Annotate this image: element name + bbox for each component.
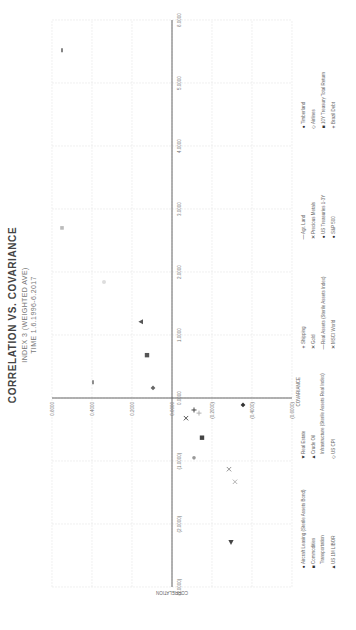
legend-marker-icon: ● — [300, 564, 306, 570]
legend-marker-icon: ▲ — [310, 454, 316, 460]
legend-label: Agr. Land — [301, 215, 306, 234]
legend-item: Transportation — [320, 535, 325, 570]
y-tick-label: (0.2000) — [210, 402, 215, 419]
legend-label: Shipping — [301, 326, 306, 344]
legend-marker-icon: + — [330, 124, 336, 130]
legend-item: ■Commodities — [310, 538, 316, 570]
legend-marker-icon: — — [300, 234, 306, 240]
legend-item: ✕Gold — [310, 334, 316, 350]
y-tick-label: 0.0000 — [170, 402, 175, 416]
legend-marker-icon: ● — [330, 234, 336, 240]
legend-label: US Treasuries 1-3Y — [321, 195, 326, 234]
x-tick-label: 4.0000 — [177, 139, 182, 153]
legend-item: +Brazil Debt — [330, 102, 336, 130]
y-tick-label: 0.2000 — [130, 402, 135, 416]
legend-item: ■10Y Treasury Total Return — [320, 72, 326, 130]
legend-label: 10Y Treasury Total Return — [321, 72, 326, 124]
x-axis-title: COVARIANCE — [296, 377, 301, 406]
data-point-triangle — [138, 319, 143, 324]
legend-item: ▼Real Estate — [300, 431, 306, 460]
x-tick-label: (1.0000) — [177, 452, 182, 469]
legend-marker-icon: + — [300, 344, 306, 350]
legend-item: +Shipping — [300, 326, 306, 350]
x-tick-label: 3.0000 — [177, 202, 182, 216]
legend-label: Real Assets (Sterile Assets Index) — [321, 276, 326, 344]
data-point-diamond — [241, 403, 246, 408]
legend-label: Aircraft Leasing (Sterile Assets Bond) — [301, 489, 306, 564]
legend-label: Airlines — [311, 109, 316, 124]
legend-item: ●S&P 500 — [330, 216, 336, 240]
chart-frame: CORRELATION VS. COVARIANCE INDEX 3 (WEIG… — [0, 0, 356, 630]
y-tick-label: (0.4000) — [250, 402, 255, 419]
legend-item: ●Aircraft Leasing (Sterile Assets Bond) — [300, 489, 306, 570]
legend-item: ✕Precious Metals — [310, 202, 316, 240]
legend-label: Crude Oil — [311, 435, 316, 454]
legend-label: Timberland — [301, 102, 306, 124]
legend-label: Transportation — [320, 535, 325, 564]
legend-label: US CPI — [331, 439, 336, 454]
y-axis-title: CORRELATION — [156, 590, 188, 595]
legend-marker-icon: ▼ — [300, 454, 306, 460]
legend-marker-icon: ✕ — [330, 344, 336, 350]
data-point-square — [200, 435, 204, 439]
x-tick-label: 6.0000 — [177, 13, 182, 27]
legend-marker-icon: ● — [300, 124, 306, 130]
y-tick-label: (0.6000) — [290, 402, 295, 419]
legend-marker-icon: ▲ — [330, 564, 336, 570]
y-tick-label: 0.6000 — [50, 402, 55, 416]
legend-label: US 1M LIBOR — [331, 535, 336, 564]
legend-item: Infrastructure (Sterile Assets Real Inde… — [320, 373, 325, 460]
legend-marker-icon: ◇ — [330, 454, 336, 460]
legend-label: MSCI World — [331, 320, 336, 344]
legend-item: ✕MSCI World — [330, 320, 336, 350]
legend-item: ▲US 1M LIBOR — [330, 535, 336, 570]
data-point-square — [145, 353, 149, 357]
legend-marker-icon: ■ — [320, 124, 326, 130]
legend-label: Precious Metals — [311, 202, 316, 234]
legend-item: ◇Airlines — [310, 109, 316, 130]
x-tick-label: 0.0000 — [177, 391, 182, 405]
x-tick-label: 1.0000 — [177, 328, 182, 342]
x-tick-label: 2.0000 — [177, 265, 182, 279]
y-tick-label: 0.4000 — [90, 402, 95, 416]
legend-marker-icon: ✕ — [310, 234, 316, 240]
legend-item: —Real Assets (Sterile Assets Index) — [320, 276, 326, 350]
legend-item: —Agr. Land — [300, 215, 306, 240]
legend-label: Commodities — [311, 538, 316, 564]
legend-marker-icon: ✕ — [310, 344, 316, 350]
legend-marker-icon: ● — [320, 234, 326, 240]
data-point-circle — [102, 280, 106, 284]
legend-item: ●Timberland — [300, 102, 306, 130]
data-point-diamond — [151, 386, 156, 391]
x-tick-label: 5.0000 — [177, 76, 182, 90]
legend-item: ▲Crude Oil — [310, 435, 316, 460]
legend-marker-icon: — — [320, 344, 326, 350]
legend-marker-icon: ■ — [310, 564, 316, 570]
legend-label: Infrastructure (Sterile Assets Real Inde… — [320, 373, 325, 454]
data-point-square — [60, 226, 64, 230]
data-point-circle — [192, 456, 196, 460]
legend-item: ●US Treasuries 1-3Y — [320, 195, 326, 240]
x-tick-label: (2.0000) — [177, 515, 182, 532]
legend-label: Gold — [311, 334, 316, 344]
legend-label: Real Estate — [301, 431, 306, 454]
legend-marker-icon: ◇ — [310, 124, 316, 130]
legend-item: ◇US CPI — [330, 439, 336, 460]
legend-label: S&P 500 — [331, 216, 336, 234]
legend-label: Brazil Debt — [331, 102, 336, 124]
data-point-triangle — [228, 540, 233, 545]
